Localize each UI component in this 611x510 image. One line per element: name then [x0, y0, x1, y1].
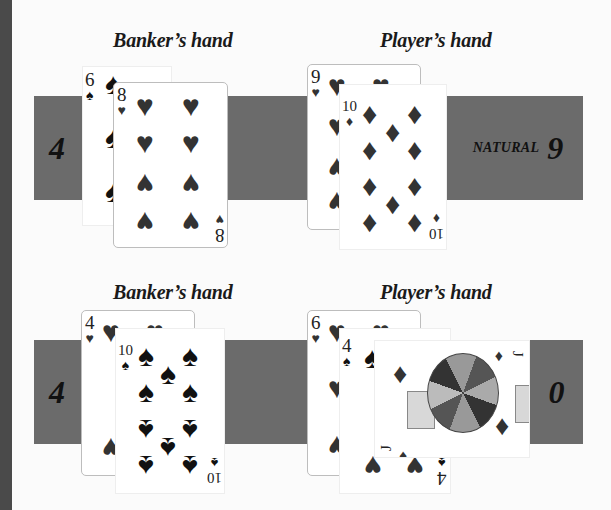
diamond-icon: ♦ [385, 117, 400, 147]
card-index: 9 ♥ [311, 68, 321, 100]
spade-icon: ♠ [160, 359, 176, 389]
left-border [0, 0, 12, 510]
heart-icon: ♥ [136, 91, 154, 121]
card-index: 8 ♥ [215, 212, 225, 244]
card-index: 8 ♥ [117, 86, 127, 118]
diamond-icon: ♦ [393, 359, 407, 389]
diamond-icon: ♦ [362, 171, 377, 201]
heart-icon: ♥ [182, 128, 200, 158]
card-index: J [377, 445, 395, 451]
jack-hand-right [515, 385, 530, 423]
spade-icon: ♠ [138, 451, 154, 481]
spade-icon: ♠ [160, 433, 176, 463]
banker-card-8-hearts[interactable]: 8 ♥ ♥ ♥ ♥ ♥ ♥ ♥ ♥ ♥ 8 ♥ [113, 82, 228, 248]
player-card-jack-diamonds[interactable]: J ♦ ♦ ♦ ♦ J [374, 340, 530, 458]
diamond-icon: ♦ [362, 207, 377, 237]
player-score: NATURAL 9 [453, 96, 583, 200]
diamond-icon: ♦ [407, 171, 422, 201]
spade-icon: ♠ [182, 415, 198, 445]
diamond-icon: ♦ [385, 189, 400, 219]
diamond-icon: ♦ [407, 207, 422, 237]
diamond-icon: ♦ [342, 115, 357, 129]
spade-icon: ♠ [342, 355, 352, 369]
diamond-icon: ♦ [362, 135, 377, 165]
heart-icon: ♥ [182, 169, 200, 199]
natural-label: NATURAL [473, 140, 540, 156]
spade-icon: ♠ [138, 415, 154, 445]
diamond-icon: ♦ [362, 99, 377, 129]
spade-icon: ♠ [85, 89, 95, 103]
heart-icon: ♥ [311, 86, 321, 100]
heart-icon: ♥ [136, 207, 154, 237]
heart-icon: ♥ [311, 332, 321, 346]
spade-icon: ♠ [182, 377, 198, 407]
spade-icon: ♠ [182, 341, 198, 371]
diamond-icon: ♦ [407, 135, 422, 165]
player-card-10-diamonds[interactable]: 10 ♦ ♦ ♦ ♦ ♦ ♦ ♦ ♦ ♦ ♦ ♦ 10 ♦ [339, 84, 447, 250]
card-index: 10 ♦ [429, 211, 444, 243]
player-score-value: 9 [547, 130, 563, 167]
spade-icon: ♠ [138, 341, 154, 371]
card-index: 4 ♠ [437, 455, 447, 487]
diamond-icon: ♦ [407, 99, 422, 129]
jack-face-art [427, 353, 499, 433]
heart-icon: ♥ [215, 212, 225, 226]
spade-icon: ♠ [118, 359, 133, 373]
heart-icon: ♥ [182, 91, 200, 121]
diamond-icon: ♦ [399, 441, 407, 458]
diamond-icon: ♦ [495, 411, 509, 441]
player-hand-label: Player’s hand [380, 29, 492, 52]
diamond-icon: ♦ [429, 211, 444, 225]
heart-icon: ♥ [85, 332, 95, 346]
card-index: 4 ♠ [342, 337, 352, 369]
spade-icon: ♠ [138, 377, 154, 407]
heart-icon: ♥ [136, 169, 154, 199]
banker-card-10-spades[interactable]: 10 ♠ ♠ ♠ ♠ ♠ ♠ ♠ ♠ ♠ ♠ ♠ 10 ♠ [115, 328, 225, 494]
player-hand-label: Player’s hand [380, 281, 492, 304]
heart-icon: ♥ [117, 104, 127, 118]
card-index: 6 ♥ [311, 314, 321, 346]
banker-score: 4 [34, 340, 80, 444]
card-index: 10 ♠ [118, 341, 133, 373]
spade-icon: ♠ [182, 451, 198, 481]
banker-hand-label: Banker’s hand [113, 29, 232, 52]
banker-score: 4 [34, 96, 80, 200]
diamond-icon: ♦ [495, 341, 503, 371]
card-index: 10 ♦ [342, 97, 357, 129]
card-index: 4 ♥ [85, 314, 95, 346]
player-score: 0 [530, 340, 583, 444]
banker-hand-label: Banker’s hand [113, 281, 232, 304]
card-index: J [509, 351, 527, 357]
heart-icon: ♥ [136, 128, 154, 158]
card-index: 6 ♠ [85, 71, 95, 103]
card-index: 10 ♠ [207, 455, 222, 487]
heart-icon: ♥ [182, 207, 200, 237]
spade-icon: ♠ [207, 455, 222, 469]
